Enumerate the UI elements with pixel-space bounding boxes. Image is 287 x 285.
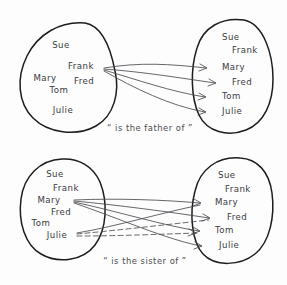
member-fred: Fred: [74, 76, 94, 86]
diagram-father-of: Sue Frank Mary Fred Tom Julie Sue Frank …: [20, 19, 273, 133]
member-julie: Julie: [218, 240, 239, 250]
member-tom: Tom: [49, 85, 69, 95]
member-tom: Tom: [221, 91, 241, 101]
diagram-canvas: Sue Frank Mary Fred Tom Julie Sue Frank …: [0, 0, 287, 285]
caption-sister-of: “ is the sister of ”: [103, 256, 186, 266]
edge-frank-fred: [104, 69, 215, 83]
member-fred: Fred: [51, 207, 71, 217]
member-mary: Mary: [33, 73, 56, 83]
member-mary: Mary: [215, 197, 238, 207]
member-tom: Tom: [214, 225, 234, 235]
member-frank: Frank: [225, 184, 251, 194]
edges-father: [104, 64, 216, 115]
codomain-members-sister: Sue Frank Mary Fred Tom Julie: [214, 170, 251, 250]
member-sue: Sue: [218, 170, 236, 180]
member-frank: Frank: [68, 61, 94, 71]
member-frank: Frank: [232, 45, 258, 55]
edge-frank-mary: [104, 64, 206, 68]
member-sue: Sue: [52, 40, 70, 50]
codomain-members-father: Sue Frank Mary Fred Tom Julie: [221, 32, 258, 116]
member-sue: Sue: [222, 32, 240, 42]
edge-mary-julie: [74, 203, 201, 246]
caption-father-of: “ is the father of ”: [107, 123, 193, 133]
diagram-figure: Sue Frank Mary Fred Tom Julie Sue Frank …: [0, 0, 287, 285]
edge-julie-fred: [77, 220, 209, 234]
edge-mary-fred: [74, 201, 209, 218]
member-frank: Frank: [53, 183, 79, 193]
edge-mary-tom: [74, 202, 199, 231]
domain-members-father: Sue Frank Mary Fred Tom Julie: [33, 40, 94, 115]
edge-julie-mary: [77, 205, 200, 233]
member-mary: Mary: [37, 195, 60, 205]
member-fred: Fred: [232, 77, 252, 87]
domain-members-sister: Sue Frank Mary Fred Tom Julie: [31, 169, 79, 240]
edge-julie-tom: [77, 233, 199, 236]
member-tom: Tom: [31, 218, 51, 228]
member-julie: Julie: [221, 106, 242, 116]
edge-frank-julie: [104, 71, 205, 112]
member-julie: Julie: [46, 230, 67, 240]
member-fred: Fred: [227, 212, 247, 222]
edges-sister: [74, 199, 210, 249]
diagram-sister-of: Sue Frank Mary Fred Tom Julie Sue Frank …: [20, 158, 273, 266]
member-julie: Julie: [52, 105, 73, 115]
member-mary: Mary: [222, 62, 245, 72]
member-sue: Sue: [46, 169, 64, 179]
